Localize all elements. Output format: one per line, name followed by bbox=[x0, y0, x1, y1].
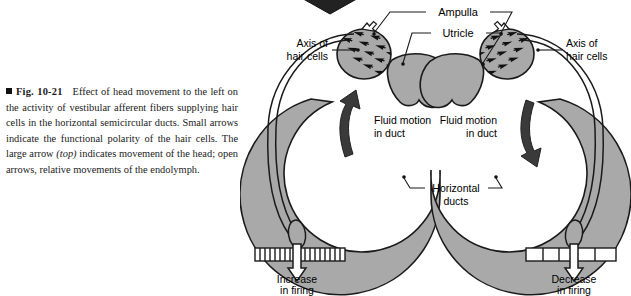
label-fluid-left-line2: in duct bbox=[374, 127, 405, 139]
square-bullet-icon bbox=[6, 88, 12, 94]
utricle-dot-right bbox=[481, 62, 485, 66]
label-axis-right-line1: Axis of bbox=[566, 37, 598, 49]
head-movement-arrow bbox=[298, 0, 362, 14]
label-axis-left-line1: Axis of bbox=[296, 37, 328, 49]
label-fluid-right-line2: in duct bbox=[466, 127, 497, 139]
label-horizontal-line2: ducts bbox=[443, 195, 468, 207]
label-utricle: Utricle bbox=[442, 27, 473, 39]
right-fluid-motion-arrow bbox=[521, 100, 541, 167]
right-utricle bbox=[420, 54, 483, 108]
label-fluid-left-line1: Fluid motion bbox=[374, 114, 431, 126]
label-axis-right-line2: hair cells bbox=[566, 50, 607, 62]
ampulla-dot-left bbox=[372, 32, 376, 36]
label-decrease-firing-line2: in firing bbox=[557, 284, 591, 296]
axis-dot-left bbox=[356, 48, 360, 52]
ampulla-dot-right bbox=[499, 32, 503, 36]
label-horizontal-line1: Horizontal bbox=[432, 182, 479, 194]
diagram-graphics: Ampulla Utricle Axis of hair cells Axis … bbox=[240, 0, 631, 296]
duct-dot-left bbox=[402, 175, 406, 179]
vestibular-duct-diagram: Ampulla Utricle Axis of hair cells Axis … bbox=[240, 0, 631, 296]
figure-number: Fig. 10-21 bbox=[16, 86, 63, 97]
duct-dot-right bbox=[494, 175, 498, 179]
utricle-dot-left bbox=[401, 62, 405, 66]
label-axis-left-line2: hair cells bbox=[287, 50, 328, 62]
label-increase-firing-line2: in firing bbox=[280, 284, 314, 296]
figure-root: Fig. 10-21Effect of head movement to the… bbox=[0, 0, 631, 296]
left-cupula-arrow bbox=[362, 22, 377, 32]
label-fluid-right-line1: Fluid motion bbox=[440, 114, 497, 126]
axis-dot-right bbox=[536, 48, 540, 52]
caption-italic-top: (top) bbox=[56, 148, 76, 159]
figure-caption: Fig. 10-21Effect of head movement to the… bbox=[6, 84, 238, 178]
left-fluid-motion-arrow bbox=[340, 90, 360, 157]
label-ampulla: Ampulla bbox=[438, 6, 479, 18]
